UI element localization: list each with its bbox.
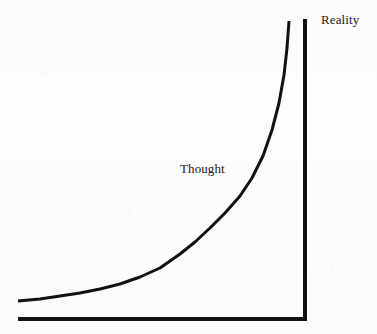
figure-canvas: Reality Thought [0, 0, 377, 334]
thought-curve [18, 21, 289, 301]
thought-label: Thought [180, 162, 225, 175]
reality-label: Reality [321, 13, 359, 26]
